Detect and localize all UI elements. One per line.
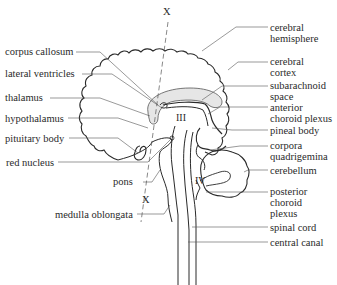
label-spinal-cord: spinal cord bbox=[270, 222, 316, 233]
label-anterior-choroid-plexus: anterior choroid plexus bbox=[270, 102, 332, 124]
label-corpora-quadrigemina: corpora quadrigemina bbox=[270, 140, 328, 162]
third-ventricle-label: III bbox=[176, 112, 186, 123]
label-posterior-choroid-plexus: posterior choroid plexus bbox=[270, 186, 307, 219]
pons-shape bbox=[152, 138, 172, 222]
brain-diagram: X X III IV corpus callosum lateral ventr… bbox=[0, 0, 337, 285]
label-thalamus: thalamus bbox=[5, 92, 43, 103]
pituitary-body bbox=[134, 146, 146, 160]
fourth-ventricle-label: IV bbox=[195, 175, 206, 186]
label-hypothalamus: hypothalamus bbox=[5, 113, 64, 124]
label-lateral-ventricles: lateral ventricles bbox=[5, 68, 75, 79]
label-pineal-body: pineal body bbox=[270, 125, 319, 136]
label-cerebral-cortex: cerebral cortex bbox=[270, 56, 304, 78]
section-marker-bottom: X bbox=[142, 194, 150, 205]
label-pituitary-body: pituitary body bbox=[5, 133, 64, 144]
label-subarachnoid-space: subarachnoid space bbox=[270, 80, 326, 102]
section-line-x bbox=[141, 22, 168, 222]
label-cerebellum: cerebellum bbox=[270, 165, 317, 176]
section-marker-top: X bbox=[163, 6, 171, 17]
label-central-canal: central canal bbox=[270, 237, 323, 248]
label-cerebral-hemisphere: cerebral hemisphere bbox=[270, 22, 318, 44]
label-pons: pons bbox=[113, 176, 133, 187]
label-medulla-oblongata: medulla oblongata bbox=[55, 209, 133, 220]
label-corpus-callosum: corpus callosum bbox=[5, 46, 74, 57]
label-red-nucleus: red nucleus bbox=[6, 157, 54, 168]
cerebellum-shape bbox=[201, 150, 249, 197]
